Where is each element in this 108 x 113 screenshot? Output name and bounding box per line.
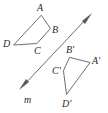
mirror-line-arrowhead-lower	[19, 79, 29, 90]
preimage-quadrilateral-abcd: A B C D	[2, 2, 58, 56]
vertex-label-a-prime: A'	[91, 55, 101, 66]
vertex-label-a: A	[36, 2, 44, 13]
vertex-label-c-prime: C'	[52, 65, 62, 76]
image-outline	[64, 58, 91, 95]
preimage-outline	[14, 16, 51, 46]
reflection-diagram: m A B C D B' A' D' C'	[0, 0, 108, 113]
image-quadrilateral-abcd-prime: B' A' D' C'	[52, 44, 101, 109]
vertex-label-d-prime: D'	[61, 98, 72, 109]
vertex-label-b-prime: B'	[66, 44, 75, 55]
vertex-label-c: C	[34, 45, 41, 56]
mirror-line-arrowhead-upper	[82, 13, 92, 24]
mirror-line-label: m	[24, 94, 31, 105]
vertex-label-b: B	[52, 24, 58, 35]
vertex-label-d: D	[2, 38, 11, 49]
diagram-canvas: m A B C D B' A' D' C'	[0, 0, 108, 113]
